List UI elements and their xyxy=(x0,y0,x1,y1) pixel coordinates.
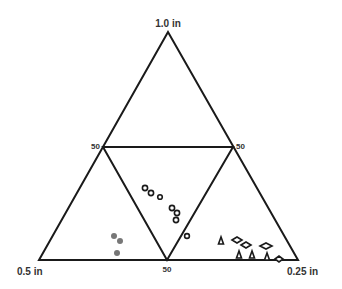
data-point xyxy=(173,217,178,222)
data-point xyxy=(117,238,123,244)
vertex-label-top: 1.0 in xyxy=(155,18,181,29)
inner-triangle xyxy=(103,147,233,260)
data-point xyxy=(158,195,163,200)
vertex-label-bottom-right: 0.25 in xyxy=(287,266,318,277)
mid-label-right: 50 xyxy=(236,142,245,151)
data-point xyxy=(275,256,283,262)
data-point xyxy=(241,242,251,248)
data-point xyxy=(219,237,224,244)
vertex-label-bottom-left: 0.5 in xyxy=(17,266,43,277)
data-point xyxy=(169,205,174,210)
data-point xyxy=(250,251,255,258)
data-point xyxy=(111,233,117,239)
data-point xyxy=(148,190,153,195)
data-point xyxy=(114,250,120,256)
data-point xyxy=(142,185,147,190)
data-point xyxy=(232,237,242,243)
ternary-diagram: 1.0 in 0.5 in 0.25 in 50 50 50 xyxy=(0,0,342,289)
data-point xyxy=(260,243,272,249)
series-filled-circles xyxy=(111,233,123,256)
series-triangles xyxy=(219,237,270,260)
data-point xyxy=(265,253,270,260)
mid-label-bottom: 50 xyxy=(163,265,172,274)
data-point xyxy=(185,234,190,239)
data-point xyxy=(237,251,242,258)
mid-label-left: 50 xyxy=(91,142,100,151)
data-point xyxy=(174,210,179,215)
